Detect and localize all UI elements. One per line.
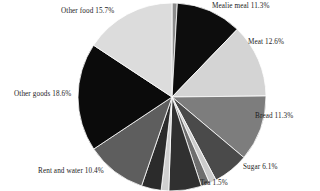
- slice-label-rent-and-water: Rent and water 10.4%: [38, 168, 104, 176]
- slice-label-tea: Tea 1.5%: [200, 180, 228, 188]
- slice-label-meat: Meat 12.6%: [248, 39, 284, 47]
- slice-label-other-goods: Other goods 18.6%: [14, 91, 71, 99]
- slice-label-sugar: Sugar 6.1%: [243, 164, 278, 172]
- slice-label-mealie-meal: Mealie meal 11.3%: [212, 3, 270, 11]
- pie-slice-group: [78, 3, 266, 191]
- slice-label-bread: Bread 11.3%: [255, 113, 293, 121]
- slice-label-other-food: Other food 15.7%: [61, 8, 114, 16]
- pie-chart: Mealie meal 11.3% Meat 12.6% Bread 11.3%…: [0, 0, 320, 191]
